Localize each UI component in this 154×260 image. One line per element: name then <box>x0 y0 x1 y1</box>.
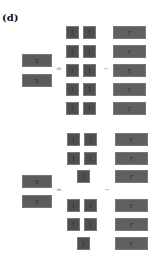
matrix-cell: 1 <box>67 199 80 212</box>
matrix-cell: 1 <box>84 152 97 165</box>
matrix-cell: 1 <box>67 152 80 165</box>
result-cell: r <box>115 152 148 165</box>
matrix-cell: 1 <box>83 45 96 58</box>
matrix-cell: 1 <box>66 64 79 77</box>
result-cell: r <box>113 45 146 58</box>
matrix-cell: 1 <box>66 102 79 115</box>
matrix-cell: 1 <box>83 26 96 39</box>
left-vector-cell: x <box>22 175 52 188</box>
result-cell: r <box>115 133 148 146</box>
minus-sign: − <box>103 66 109 73</box>
result-cell: r <box>113 64 146 77</box>
matrix-cell: 1 <box>66 45 79 58</box>
matrix-cell: 1 <box>77 237 90 250</box>
equals-sign: = <box>56 187 62 194</box>
result-cell: r <box>113 26 146 39</box>
matrix-cell: 1 <box>83 64 96 77</box>
matrix-cell: 1 <box>84 199 97 212</box>
matrix-cell: 1 <box>66 83 79 96</box>
result-cell: r <box>115 237 148 250</box>
panel-label: (d) <box>2 12 18 23</box>
result-cell: r <box>113 102 146 115</box>
matrix-cell: 1 <box>83 83 96 96</box>
equals-sign: = <box>56 66 62 73</box>
result-cell: r <box>113 83 146 96</box>
matrix-cell: 1 <box>66 26 79 39</box>
matrix-cell: 1 <box>67 218 80 231</box>
matrix-cell: 1 <box>84 218 97 231</box>
left-vector-cell: x <box>22 74 52 87</box>
result-cell: r <box>115 218 148 231</box>
matrix-cell: 1 <box>84 133 97 146</box>
matrix-cell: 1 <box>67 133 80 146</box>
matrix-cell: 1 <box>77 170 90 183</box>
matrix-cell: 1 <box>83 102 96 115</box>
result-cell: r <box>115 199 148 212</box>
left-vector-cell: x <box>22 54 52 67</box>
minus-sign: − <box>104 187 110 194</box>
left-vector-cell: x <box>22 195 52 208</box>
result-cell: r <box>115 170 148 183</box>
